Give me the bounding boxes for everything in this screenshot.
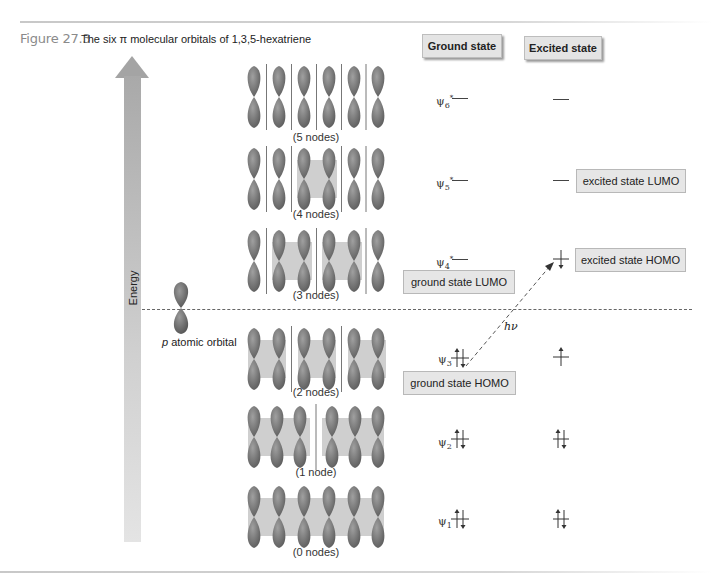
psi3-label: ψ3 <box>438 353 452 368</box>
mo-psi3-lobes <box>242 326 390 392</box>
nodes-label-psi3: (2 nodes) <box>242 386 390 398</box>
ground-psi1-electron-pair-icon <box>451 508 471 530</box>
excited-level-psi5 <box>553 180 569 181</box>
excited-state-lumo-label: excited state LUMO <box>576 169 686 193</box>
nodes-label-psi6: (5 nodes) <box>242 131 390 143</box>
psi-symbol: ψ <box>436 95 445 108</box>
photon-label: hν <box>504 320 518 333</box>
nodes-label-psi2: (1 node) <box>242 466 390 478</box>
psi5-label: ψ5* <box>436 176 453 192</box>
ground-state-homo-label: ground state HOMO <box>403 371 516 395</box>
psi-index: 5 <box>445 183 450 192</box>
mo-psi2-lobes <box>242 404 390 470</box>
excited-psi1-electron-pair-icon <box>553 508 573 530</box>
energy-arrow-head-icon <box>115 56 149 78</box>
atomic-orbital-text: atomic orbital <box>171 336 236 348</box>
excited-level-psi6 <box>553 99 569 100</box>
p-orbital-icon <box>168 280 194 336</box>
header-ground-state: Ground state <box>422 34 502 58</box>
psi-symbol: ψ <box>438 353 447 366</box>
ground-level-psi6 <box>452 98 468 99</box>
p-symbol: p <box>162 336 168 348</box>
psi-symbol: ψ <box>438 515 447 528</box>
excited-psi2-electron-pair-icon <box>553 428 573 450</box>
psi4-label: ψ4* <box>436 255 453 271</box>
nodes-label-psi4: (3 nodes) <box>242 289 390 301</box>
mo-psi1-lobes <box>242 484 390 550</box>
psi-symbol: ψ <box>438 436 447 449</box>
ground-level-psi5 <box>452 180 468 181</box>
psi-symbol: ψ <box>436 177 445 190</box>
atomic-orbital-energy-line <box>142 309 692 310</box>
nodes-label-psi5: (4 nodes) <box>242 208 390 220</box>
header-excited-state: Excited state <box>524 36 602 60</box>
psi-symbol: ψ <box>436 256 445 269</box>
energy-axis-label: Energy <box>127 263 139 313</box>
psi-index: 6 <box>445 101 450 110</box>
ground-psi2-electron-pair-icon <box>451 428 471 450</box>
figure-caption: The six π molecular orbitals of 1,3,5-he… <box>81 33 311 45</box>
figure-number: Figure 27.3 <box>20 31 91 46</box>
p-atomic-orbital-label: p atomic orbital <box>162 336 237 348</box>
mo-psi4-lobes <box>242 228 390 294</box>
psi2-label: ψ2 <box>438 436 452 451</box>
mo-psi6-lobes <box>242 64 390 130</box>
excited-state-homo-label: excited state HOMO <box>575 248 686 272</box>
nodes-label-psi1: (0 nodes) <box>242 546 390 558</box>
ground-state-lumo-label: ground state LUMO <box>403 270 515 294</box>
bottom-rule <box>0 571 712 573</box>
psi1-label: ψ1 <box>438 515 452 530</box>
top-rule <box>20 21 712 23</box>
psi6-label: ψ6* <box>436 94 453 110</box>
mo-psi5-lobes <box>242 146 390 212</box>
